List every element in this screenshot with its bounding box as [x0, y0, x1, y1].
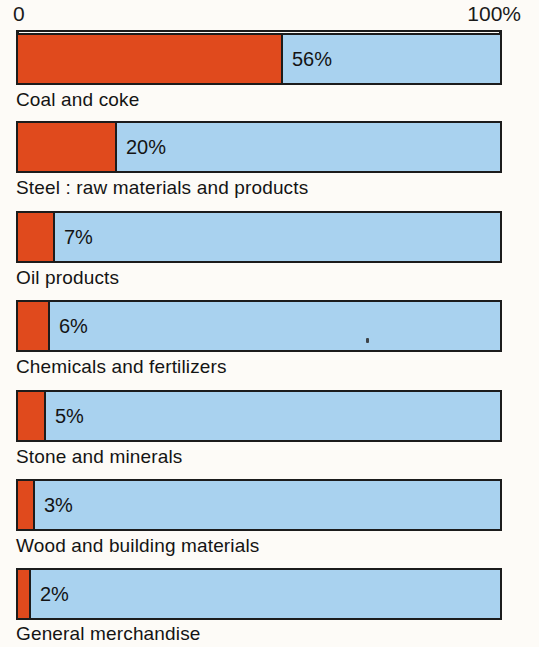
bar-track: 20% [16, 121, 502, 173]
bar-category-label: Steel : raw materials and products [16, 176, 308, 200]
bar-group-coal-and-coke: 56% Coal and coke [16, 33, 502, 85]
bar-value-label: 3% [44, 494, 73, 516]
bar-group-oil-products: 7% Oil products [16, 211, 502, 263]
bar-share-segment [18, 123, 117, 171]
bar-share-segment [18, 481, 35, 529]
bar-value-label: 5% [55, 405, 84, 427]
bar-value-label: 7% [64, 226, 93, 248]
bar-value-label: 2% [40, 583, 69, 605]
bar-track: 6% [16, 300, 502, 352]
bar-share-segment [18, 35, 283, 83]
bar-value-label: 6% [59, 315, 88, 337]
chart-root: 0 100% 56% Coal and coke 20% Steel : raw… [0, 0, 539, 647]
bar-track: 3% [16, 479, 502, 531]
print-speck-artifact [366, 338, 369, 343]
bar-value-label: 56% [292, 48, 332, 70]
bar-group-stone-and-minerals: 5% Stone and minerals [16, 390, 502, 442]
bar-category-label: Stone and minerals [16, 445, 182, 469]
bar-group-steel-raw-materials-and-products: 20% Steel : raw materials and products [16, 121, 502, 173]
bar-track: 56% [16, 33, 502, 85]
bar-share-segment [18, 213, 55, 261]
bar-group-general-merchandise: 2% General merchandise [16, 568, 502, 620]
bar-group-chemicals-and-fertilizers: 6% Chemicals and fertilizers [16, 300, 502, 352]
bar-category-label: Oil products [16, 266, 119, 290]
bar-value-label: 20% [126, 136, 166, 158]
bar-category-label: Chemicals and fertilizers [16, 355, 227, 379]
bar-share-segment [18, 302, 50, 350]
bar-track: 7% [16, 211, 502, 263]
bar-track: 5% [16, 390, 502, 442]
bar-share-segment [18, 570, 31, 618]
bar-category-label: General merchandise [16, 622, 201, 646]
bar-group-wood-and-building-materials: 3% Wood and building materials [16, 479, 502, 531]
bar-category-label: Coal and coke [16, 88, 139, 112]
bar-list: 56% Coal and coke 20% Steel : raw materi… [0, 0, 539, 647]
bar-category-label: Wood and building materials [16, 534, 259, 558]
bar-share-segment [18, 392, 46, 440]
bar-track: 2% [16, 568, 502, 620]
